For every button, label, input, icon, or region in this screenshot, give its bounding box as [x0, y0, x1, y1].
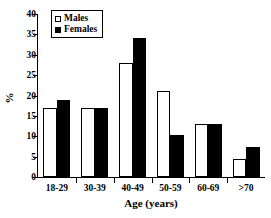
bar-males->70 — [233, 159, 247, 177]
bar-group — [189, 14, 227, 177]
bar-females-30-39 — [95, 108, 109, 177]
bar-group — [152, 14, 190, 177]
x-axis-tick-label: 18-29 — [38, 181, 76, 195]
x-axis-tick-label: 30-39 — [76, 181, 114, 195]
x-axis-label: Age (years) — [37, 197, 265, 209]
bar-group — [227, 14, 265, 177]
x-axis-tick-label: 60-69 — [189, 181, 227, 195]
bar-group — [38, 14, 76, 177]
bar-females-18-29 — [57, 100, 71, 177]
bar-males-30-39 — [81, 108, 95, 177]
x-axis-tick-label: >70 — [227, 181, 265, 195]
x-axis-tick-label: 40-49 — [114, 181, 152, 195]
legend-item-males: Males — [55, 13, 97, 24]
bar-group — [76, 14, 114, 177]
open-square-icon — [55, 16, 61, 22]
bar-males-18-29 — [43, 108, 57, 177]
legend-item-females: Females — [55, 24, 97, 35]
legend-item-label: Males — [64, 13, 88, 24]
bar-males-60-69 — [195, 124, 209, 177]
bar-males-50-59 — [157, 91, 171, 177]
plot-area — [38, 14, 265, 177]
bar-females-40-49 — [133, 38, 147, 177]
bar-chart: % 0510152025303540 18-2930-3940-4950-596… — [0, 0, 271, 218]
bar-group — [114, 14, 152, 177]
chart-legend: Males Females — [51, 10, 103, 38]
bar-females-50-59 — [170, 135, 184, 177]
bar-females->70 — [246, 147, 260, 177]
legend-item-label: Females — [64, 24, 97, 35]
bar-females-60-69 — [208, 124, 222, 177]
filled-square-icon — [55, 27, 61, 33]
x-axis-tick-label: 50-59 — [152, 181, 190, 195]
bar-males-40-49 — [119, 63, 133, 177]
